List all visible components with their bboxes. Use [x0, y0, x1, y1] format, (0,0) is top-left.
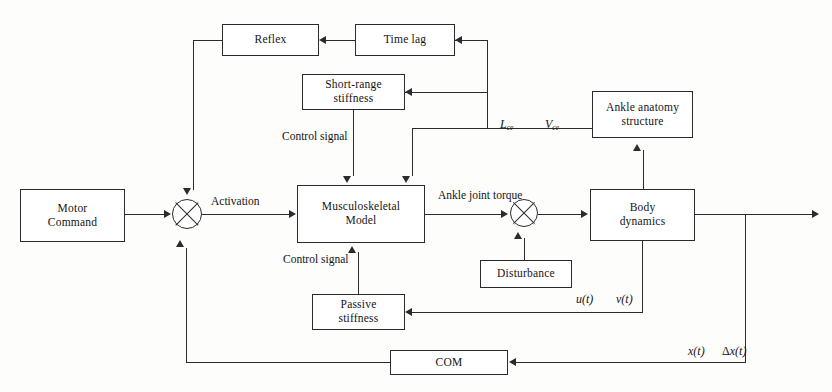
- line-body-dynamics-to-passive-stiffness-vertical: [642, 241, 643, 312]
- line-motor-command-to-sum: [125, 214, 165, 215]
- label-l-ce-symbol: L: [500, 117, 507, 131]
- block-musculoskeletal-model[interactable]: Musculoskeletal Model: [297, 185, 425, 243]
- line-reflex-out-vertical: [193, 40, 194, 190]
- line-timelag-to-reflex: [326, 40, 355, 41]
- block-time-lag-label: Time lag: [384, 33, 426, 47]
- line-sensor-to-musculoskeletal: [412, 128, 413, 176]
- arrowhead-sum-input-left: [164, 210, 171, 218]
- line-body-output-tap-vertical: [745, 214, 746, 362]
- line-feedback-trunk-vertical: [487, 40, 488, 129]
- arrowhead-musculoskeletal-bottom-input: [348, 246, 356, 253]
- block-com[interactable]: COM: [390, 350, 508, 375]
- block-disturbance-label: Disturbance: [497, 267, 555, 281]
- summing-junction-torque[interactable]: [510, 199, 538, 227]
- block-ankle-anatomy-structure-label-1: Ankle anatomy: [606, 101, 679, 115]
- arrowhead-timelag-input: [455, 36, 462, 44]
- label-v-t: v(t): [616, 292, 633, 307]
- line-disturbance-to-sum-torque: [524, 238, 525, 260]
- line-short-range-stiffness-to-musculoskeletal: [353, 110, 354, 176]
- arrowhead-sum-input-bottom: [176, 240, 184, 247]
- label-control-signal-lower: Control signal: [283, 252, 339, 266]
- block-short-range-stiffness[interactable]: Short-range stiffness: [302, 74, 405, 110]
- label-delta-x-t: Δx(t): [722, 344, 746, 359]
- line-reflex-out-horizontal: [193, 40, 223, 41]
- arrowhead-short-range-stiffness-input: [405, 88, 412, 96]
- arrowhead-musculoskeletal-top-right-input: [402, 176, 410, 183]
- label-ankle-joint-torque: Ankle joint torque: [438, 188, 510, 202]
- block-time-lag[interactable]: Time lag: [355, 24, 455, 56]
- block-body-dynamics[interactable]: Body dynamics: [590, 189, 695, 241]
- block-diagram-canvas: Motor Command Reflex Time lag Short-rang…: [0, 0, 832, 392]
- block-body-dynamics-label-2: dynamics: [620, 215, 666, 229]
- label-delta-symbol: Δ: [722, 344, 730, 358]
- label-u-t: u(t): [576, 292, 593, 307]
- block-com-label: COM: [436, 356, 463, 370]
- line-trunk-to-short-range-stiffness: [405, 92, 488, 93]
- arrowhead-sum-torque-input-left: [501, 210, 508, 218]
- arrowhead-com-input: [509, 358, 516, 366]
- block-passive-stiffness-label-1: Passive: [339, 298, 379, 312]
- label-control-signal-upper-1: Control: [282, 130, 317, 142]
- block-musculoskeletal-model-label-1: Musculoskeletal: [322, 200, 400, 214]
- label-ankle-joint-torque-2: torque: [493, 189, 522, 201]
- block-short-range-stiffness-label-1: Short-range: [325, 78, 382, 92]
- label-control-signal-lower-1: Control: [283, 253, 318, 265]
- block-ankle-anatomy-structure[interactable]: Ankle anatomy structure: [592, 91, 693, 138]
- block-short-range-stiffness-label-2: stiffness: [325, 92, 382, 106]
- line-activation: [202, 214, 290, 215]
- line-body-dynamics-to-passive-stiffness-horizontal: [412, 312, 643, 313]
- label-l-ce: Lce: [500, 117, 513, 132]
- block-ankle-anatomy-structure-label-2: structure: [606, 115, 679, 129]
- label-control-signal-upper: Control signal: [282, 129, 338, 143]
- line-body-dynamics-to-ankle-anatomy: [643, 150, 644, 189]
- label-x-t: x(t): [688, 344, 705, 359]
- label-delta-x-t-body: x(t): [730, 344, 747, 358]
- block-body-dynamics-label-1: Body: [620, 201, 666, 215]
- block-reflex-label: Reflex: [255, 33, 287, 47]
- arrowhead-musculoskeletal-top-left-input: [343, 176, 351, 183]
- block-disturbance[interactable]: Disturbance: [480, 260, 572, 288]
- arrowhead-reflex-input: [319, 36, 326, 44]
- block-motor-command-label-2: Command: [48, 216, 97, 230]
- block-passive-stiffness[interactable]: Passive stiffness: [312, 294, 405, 330]
- label-ankle-joint-torque-1: Ankle joint: [438, 189, 490, 201]
- line-ankle-joint-torque: [425, 214, 502, 215]
- label-control-signal-upper-2: signal: [320, 130, 347, 142]
- arrowhead-musculoskeletal-input: [289, 210, 296, 218]
- arrowhead-body-dynamics-input: [581, 210, 588, 218]
- line-com-feedback-vertical: [186, 248, 187, 362]
- line-passive-stiffness-to-musculoskeletal: [358, 252, 359, 294]
- line-sum-torque-to-body-dynamics: [538, 214, 582, 215]
- arrowhead-passive-stiffness-input: [405, 308, 412, 316]
- line-x-to-com: [516, 362, 746, 363]
- label-l-ce-subscript: ce: [507, 123, 514, 132]
- label-activation: Activation: [211, 195, 260, 209]
- block-motor-command[interactable]: Motor Command: [20, 189, 125, 242]
- block-passive-stiffness-label-2: stiffness: [339, 312, 379, 326]
- block-reflex[interactable]: Reflex: [222, 24, 319, 56]
- arrowhead-sum-input-top: [183, 188, 191, 195]
- summing-junction-activation[interactable]: [172, 199, 202, 229]
- arrowhead-sum-torque-input-bottom: [514, 232, 522, 239]
- block-motor-command-label-1: Motor: [48, 202, 97, 216]
- line-body-dynamics-output: [695, 214, 813, 215]
- arrowhead-diagram-output: [812, 210, 819, 218]
- block-musculoskeletal-model-label-2: Model: [322, 214, 400, 228]
- label-v-ce-subscript: ce: [552, 123, 559, 132]
- line-com-feedback-horizontal: [186, 362, 391, 363]
- label-v-ce: Vce: [545, 117, 559, 132]
- label-control-signal-lower-2: signal: [321, 253, 348, 265]
- arrowhead-ankle-anatomy-input: [633, 144, 641, 151]
